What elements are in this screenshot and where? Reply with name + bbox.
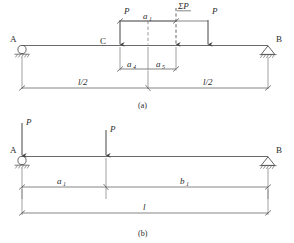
beam-point-c-label: C (100, 36, 106, 46)
dim-a1-label: a (57, 176, 62, 186)
beam-diagram-figure: A B C P P ΣP (0, 0, 294, 243)
load-at-a-label: P (25, 117, 32, 127)
dim-a5-label: a (156, 59, 161, 69)
dim-b1-label: b (180, 176, 185, 186)
support-b-label: B (276, 34, 282, 44)
support-a-roller (15, 45, 30, 57)
dim-span-group: l (22, 189, 268, 215)
dim-half-right-label: l/2 (203, 77, 213, 87)
dim-span-label: l (143, 202, 146, 212)
panel-a-caption: (a) (138, 101, 147, 110)
load-right-label: P (211, 6, 218, 16)
support-a-label: A (10, 145, 17, 155)
load-left-label: P (123, 6, 130, 16)
dim-a1-subscript: 1 (63, 181, 66, 187)
support-b-pin (260, 46, 277, 58)
figure-canvas: A B C P P ΣP (0, 0, 294, 243)
panel-a: A B C P P ΣP (10, 1, 282, 110)
dim-b1-subscript: 1 (186, 181, 189, 187)
dim-half-left-label: l/2 (78, 77, 88, 87)
dim-a4-a5-group: a 4 a 5 (120, 47, 176, 71)
support-a-roller (15, 156, 30, 168)
panel-b: A B P P a 1 b (10, 117, 282, 238)
panel-b-caption: (b) (138, 229, 148, 238)
support-a-label: A (10, 34, 17, 44)
dim-a1-b1-group: a 1 b 1 (22, 158, 268, 199)
dim-span-halves-group: l/2 l/2 (22, 57, 268, 91)
support-b-label: B (276, 145, 282, 155)
dim-a4-label: a (127, 59, 132, 69)
dim-a5-subscript: 5 (162, 64, 165, 70)
load-mid-label: P (109, 124, 116, 134)
dim-a1-label: a (143, 11, 148, 21)
support-b-pin (260, 157, 277, 169)
dim-a4-subscript: 4 (133, 64, 136, 70)
resultant-label: ΣP (177, 1, 189, 11)
